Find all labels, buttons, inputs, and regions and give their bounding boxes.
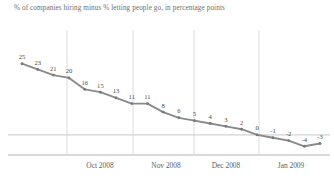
data-value-label: 23 xyxy=(34,59,41,66)
chart-container: % of companies hiring minus % letting pe… xyxy=(0,0,334,182)
data-point-marker xyxy=(319,142,322,145)
x-tick-label-2: Nov 2008 xyxy=(151,161,180,170)
data-value-label: 5 xyxy=(193,110,196,117)
data-point-marker xyxy=(193,119,196,122)
data-point-marker xyxy=(52,74,55,77)
data-value-label: 11 xyxy=(129,93,135,100)
data-value-label: -2 xyxy=(286,130,292,137)
data-point-marker xyxy=(83,88,86,91)
x-tick-label-1: Oct 2008 xyxy=(86,161,113,170)
data-value-label: 8 xyxy=(162,102,165,109)
data-point-marker xyxy=(21,62,24,65)
data-point-marker xyxy=(68,76,71,79)
data-point-marker xyxy=(272,136,275,139)
data-point-marker xyxy=(240,128,243,131)
data-point-marker xyxy=(224,125,227,128)
data-point-marker xyxy=(209,122,212,125)
data-value-label: 6 xyxy=(177,107,180,114)
data-value-label: 0 xyxy=(256,124,259,131)
data-value-label: 2 xyxy=(240,119,243,126)
line-chart-svg xyxy=(0,0,334,182)
data-point-marker xyxy=(99,91,102,94)
data-point-marker xyxy=(177,116,180,119)
data-point-marker xyxy=(287,139,290,142)
data-point-marker xyxy=(303,145,306,148)
data-value-label: 21 xyxy=(50,65,57,72)
data-value-label: 20 xyxy=(66,67,73,74)
data-value-label: -1 xyxy=(270,127,276,134)
data-point-marker xyxy=(130,102,133,105)
x-tick-label-3: Dec 2008 xyxy=(212,161,241,170)
plot-area: 2523212016151311118654320-1-2-4-3 Oct 20… xyxy=(0,0,334,182)
data-point-marker xyxy=(36,68,39,71)
data-value-label: 11 xyxy=(144,93,150,100)
data-value-label: -3 xyxy=(317,133,323,140)
x-tick-label-4: Jan 2009 xyxy=(278,161,304,170)
data-value-label: 15 xyxy=(97,82,104,89)
data-value-label: -4 xyxy=(302,136,308,143)
data-point-marker xyxy=(162,111,165,114)
data-value-label: 13 xyxy=(113,87,120,94)
data-value-label: 25 xyxy=(19,53,26,60)
data-value-label: 4 xyxy=(209,113,212,120)
data-point-marker xyxy=(115,96,118,99)
data-value-label: 16 xyxy=(81,79,88,86)
data-point-marker xyxy=(146,102,149,105)
data-point-marker xyxy=(256,133,259,136)
data-value-label: 3 xyxy=(224,116,227,123)
